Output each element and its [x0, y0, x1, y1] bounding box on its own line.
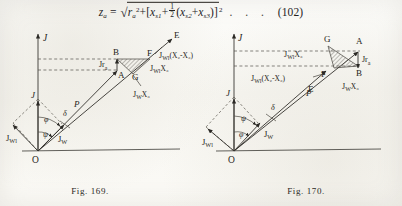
label-jw-lower-sub: W [61, 138, 67, 145]
vector-jw-lower [234, 123, 260, 151]
figure-169: J O E P B A Jra F G JWl(X₂-X₃) JWlX₃ JWX… [0, 24, 206, 184]
vector-label-p: P [73, 99, 80, 109]
label-jw-lower: JW [58, 134, 67, 145]
label-jwl-lower: JWl [202, 137, 213, 148]
figure-169-caption: Fig. 169. [0, 186, 180, 196]
svg-text:JWl(X₂-X₃): JWl(X₂-X₃) [251, 74, 286, 84]
figure-170-caption: Fig. 170. [216, 186, 396, 196]
svg-text:JWl(X₂-X₃): JWl(X₂-X₃) [159, 51, 194, 61]
baseline-axis [216, 149, 381, 151]
hatched-triangle-right [328, 46, 358, 68]
svg-text:JWl: JWl [202, 137, 213, 148]
label-jwl-x3: JWlX₃ [150, 64, 169, 74]
vector-p-o-to-f [234, 71, 326, 151]
equation-plus3: + [192, 6, 199, 18]
equation-102: za = √ra2+[xs1+12(xs2+xs3)]2 . . . (102) [0, 2, 402, 21]
svg-text:JWX₃: JWX₃ [133, 90, 150, 100]
equation-half-fraction: 12 [169, 3, 175, 19]
label-jwl-x3: JWlX₃ [284, 50, 303, 60]
label-jwl-x2-x3: JWl(X₂-X₃) [159, 51, 194, 61]
point-label-e: E [174, 30, 180, 40]
svg-text:JWlX₃: JWlX₃ [284, 50, 303, 60]
label-jwl-x2x3-tail: (X₂-X₃) [169, 51, 193, 60]
label-jra: Jra [99, 60, 108, 71]
point-label-a: A [356, 36, 363, 46]
radical-bar: ra2+[xs1+12(xs2+xs3)] [127, 2, 219, 20]
label-jra: Jra [362, 55, 371, 66]
label-j-rhombus: J [31, 90, 36, 100]
point-label-g: G [132, 72, 139, 82]
axis-label-j-top: J [43, 33, 48, 43]
equation-equals: = [110, 6, 117, 18]
svg-text:JWlX₃: JWlX₃ [150, 64, 169, 74]
svg-text:JWX₃: JWX₃ [342, 82, 359, 92]
label-jw-x3: JWX₃ [133, 90, 150, 100]
angle-label-psi: φ [239, 130, 244, 139]
label-jwx3-tail: X₃ [142, 90, 150, 99]
origin-label-o: O [228, 155, 235, 165]
svg-text:JW: JW [264, 129, 273, 140]
label-jwlx3-tail: X₃ [160, 64, 168, 73]
label-jw-x3: JWX₃ [342, 82, 359, 92]
rhombus-dashed-left [13, 99, 38, 123]
label-jwl-x2x3-tail: (X₂-X₃) [261, 74, 285, 83]
label-jra-sub: a [368, 60, 371, 66]
label-jw-lower-sub: W [267, 133, 273, 140]
fraction-denominator: 2 [169, 11, 175, 18]
equation-leader-dots: . . . [225, 6, 272, 18]
origin-label-o: O [32, 155, 39, 165]
point-label-g: G [324, 34, 331, 44]
svg-text:Jra: Jra [99, 60, 108, 71]
point-label-e: E [308, 84, 314, 94]
rhombus-dashed-right [38, 99, 62, 124]
point-label-b: B [356, 68, 362, 78]
label-jwlx3-tail: X₃ [294, 50, 302, 59]
equation-bracket-close: ] [214, 6, 218, 18]
svg-text:Jra: Jra [362, 55, 371, 66]
equation-number: (102) [276, 6, 303, 18]
angle-label-delta: δ [63, 109, 67, 118]
figure-170: J O G A B P F E Jra JWlX₃ JWl(X₂-X₃) JWX… [196, 24, 402, 184]
label-jwl-lower-sub: Wl [205, 141, 213, 148]
angle-tick-delta [266, 114, 276, 121]
label-jra-sub: a [105, 65, 108, 71]
svg-text:JWl: JWl [6, 133, 17, 144]
angle-label-delta: δ [271, 103, 275, 112]
label-jwl-x2-x3: JWl(X₂-X₃) [251, 74, 286, 84]
svg-text:JW: JW [58, 134, 67, 145]
equation-radical: √ra2+[xs1+12(xs2+xs3)]2 [119, 2, 222, 22]
point-label-b: B [113, 47, 119, 57]
angle-arc-phi [38, 117, 60, 126]
rhombus-dashed-right [234, 97, 258, 123]
label-jwx3-tail: X₃ [351, 82, 359, 91]
label-j-rhombus: J [226, 88, 231, 98]
equation-lhs-subscript: a [103, 12, 107, 20]
label-jw-lower: JW [264, 129, 273, 140]
equation-plus2: + [162, 6, 169, 18]
label-jwl-lower: JWl [6, 133, 17, 144]
equation-bracket-sup: 2 [219, 6, 223, 14]
rhombus-dashed-left [206, 97, 234, 127]
baseline-axis [22, 149, 180, 151]
point-label-f: F [147, 48, 152, 58]
label-jwl-lower-sub: Wl [9, 137, 17, 144]
point-label-a: A [118, 70, 125, 80]
angle-label-phi: φ [44, 115, 49, 124]
axis-label-j-top: J [238, 33, 243, 43]
point-label-f: F [321, 69, 326, 79]
